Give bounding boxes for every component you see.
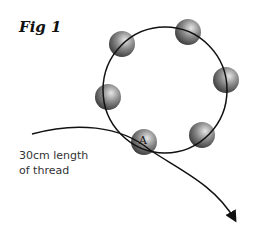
bead-ring-diagram: A: [0, 0, 256, 236]
bead-left: [95, 84, 121, 110]
bead-a-label: A: [138, 134, 148, 147]
beads: [95, 19, 239, 155]
bead-bottom-right: [189, 122, 215, 148]
